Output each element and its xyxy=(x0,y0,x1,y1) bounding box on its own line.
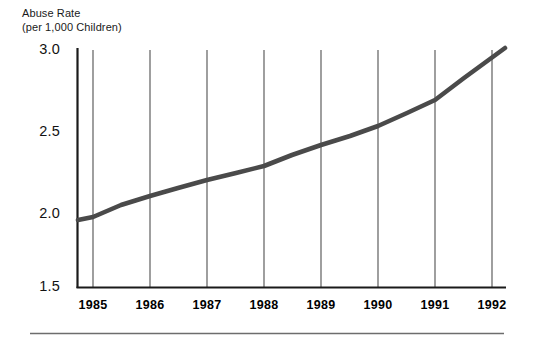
gridlines xyxy=(93,50,492,287)
x-tick-label-1988: 1988 xyxy=(235,298,293,312)
x-tick-label-1989: 1989 xyxy=(292,298,350,312)
x-tick-label-1991: 1991 xyxy=(406,298,464,312)
data-line-abuse-rate xyxy=(78,48,505,220)
x-tick-label-1986: 1986 xyxy=(121,298,179,312)
x-tick-label-1992: 1992 xyxy=(463,298,521,312)
chart-figure: Abuse Rate (per 1,000 Children) 3.0 2.5 … xyxy=(0,0,534,347)
x-tick-label-1990: 1990 xyxy=(349,298,407,312)
x-tick-label-1987: 1987 xyxy=(178,298,236,312)
plot-canvas xyxy=(0,0,534,347)
x-tick-label-1985: 1985 xyxy=(64,298,122,312)
